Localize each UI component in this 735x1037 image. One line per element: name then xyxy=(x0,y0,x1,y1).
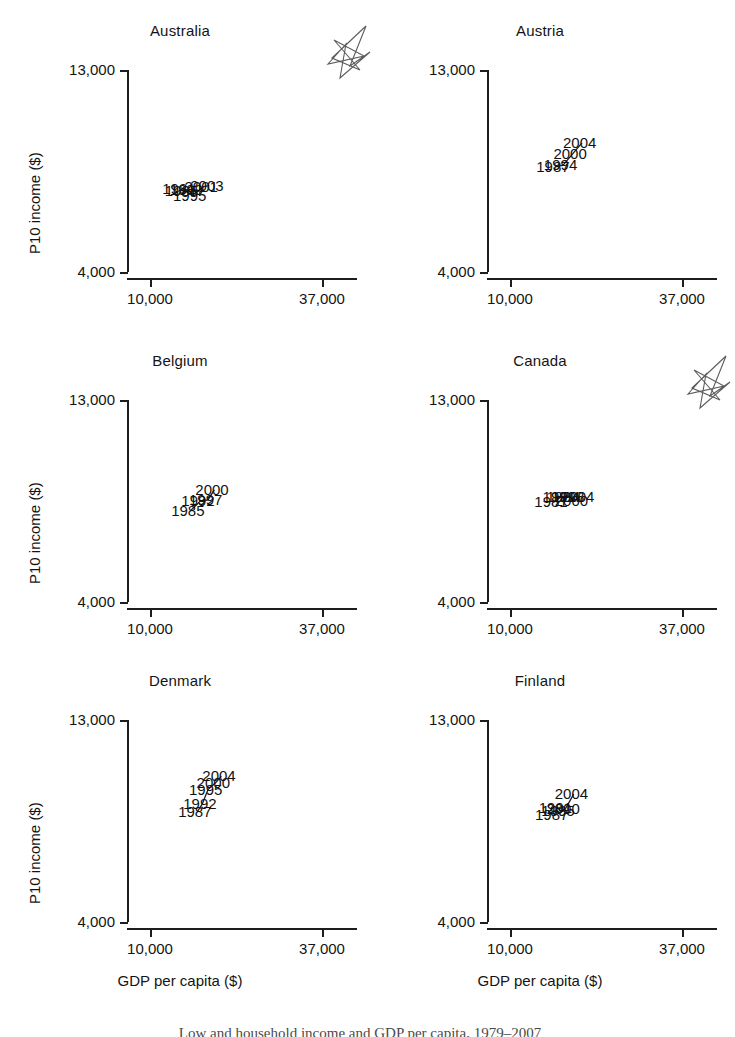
x-axis-title: GDP per capita ($) xyxy=(0,972,360,989)
figure-caption: Low and household income and GDP per cap… xyxy=(0,1026,720,1037)
panel-finland: Finland13,0004,00010,00037,000GDP per ca… xyxy=(360,650,720,970)
point-label: 2000 xyxy=(195,482,228,497)
point-label: 2004 xyxy=(561,489,594,504)
scribble-annotation-icon xyxy=(680,348,735,420)
series-polyline xyxy=(0,330,360,650)
panel-canada: Canada13,0004,00010,00037,00019811991199… xyxy=(360,330,720,650)
series-polyline xyxy=(360,330,720,650)
panel-austria: Austria13,0004,00010,00037,0001987199420… xyxy=(360,0,720,320)
panel-australia: Australia13,0004,00010,00037,000P10 inco… xyxy=(0,0,360,320)
series-polyline xyxy=(0,0,360,320)
point-label: 2003 xyxy=(190,178,223,193)
panel-belgium: Belgium13,0004,00010,00037,000P10 income… xyxy=(0,330,360,650)
point-label: 1992 xyxy=(183,796,216,811)
point-label: 2000 xyxy=(546,801,579,816)
point-label: 2004 xyxy=(555,786,588,801)
point-label: 2004 xyxy=(202,768,235,783)
x-axis-title: GDP per capita ($) xyxy=(360,972,720,989)
point-label: 2004 xyxy=(563,135,596,150)
panel-denmark: Denmark13,0004,00010,00037,000P10 income… xyxy=(0,650,360,970)
